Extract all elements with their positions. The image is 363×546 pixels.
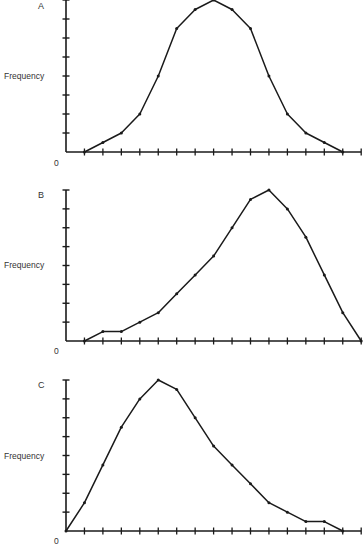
data-point <box>101 463 104 466</box>
data-point <box>120 330 123 333</box>
data-point <box>175 388 178 391</box>
data-point <box>304 132 307 135</box>
data-point <box>341 151 344 154</box>
data-point <box>101 330 104 333</box>
chart-panel-b: B Frequency 0 <box>4 189 363 357</box>
data-point <box>212 255 215 258</box>
data-point <box>249 27 252 30</box>
panel-label-c: C <box>38 380 45 390</box>
data-point <box>360 340 363 343</box>
data-point <box>323 273 326 276</box>
data-point <box>138 113 141 116</box>
origin-label-c: 0 <box>54 536 59 546</box>
data-point <box>304 520 307 523</box>
axes-b <box>63 190 362 345</box>
data-line-c <box>65 379 345 533</box>
data-point <box>157 75 160 78</box>
data-point <box>286 113 289 116</box>
data-point <box>249 482 252 485</box>
y-axis-label-c: Frequency <box>4 451 45 461</box>
data-line-a <box>83 0 344 154</box>
data-point <box>341 311 344 314</box>
data-point <box>323 520 326 523</box>
data-point <box>212 445 215 448</box>
data-point <box>120 132 123 135</box>
data-point <box>231 226 234 229</box>
data-point <box>138 397 141 400</box>
data-point <box>65 530 68 533</box>
origin-label-a: 0 <box>54 158 59 168</box>
data-point <box>323 141 326 144</box>
data-point <box>175 27 178 30</box>
origin-label-b: 0 <box>54 346 59 356</box>
data-point <box>249 198 252 201</box>
y-axis-label-a: Frequency <box>4 71 45 81</box>
data-point <box>231 463 234 466</box>
data-point <box>194 273 197 276</box>
data-point <box>267 189 270 192</box>
data-point <box>175 292 178 295</box>
panel-label-b: B <box>38 190 44 200</box>
y-axis-label-b: Frequency <box>4 260 45 270</box>
data-point <box>83 501 86 504</box>
data-point <box>194 416 197 419</box>
data-point <box>138 321 141 324</box>
data-point <box>231 8 234 11</box>
data-point <box>157 311 160 314</box>
data-point <box>120 426 123 429</box>
data-point <box>286 207 289 210</box>
data-point <box>157 379 160 382</box>
data-point <box>267 501 270 504</box>
frequency-distribution-figure: A Frequency 0 B Frequency 0 C Frequency … <box>0 0 363 546</box>
data-point <box>286 511 289 514</box>
data-point <box>341 530 344 533</box>
data-point <box>304 236 307 239</box>
data-point <box>101 141 104 144</box>
data-point <box>267 75 270 78</box>
panel-label-a: A <box>38 1 44 11</box>
data-line-b <box>83 189 363 343</box>
chart-panel-a: A Frequency 0 <box>4 0 361 168</box>
axes-a <box>63 0 362 156</box>
data-point <box>83 151 86 154</box>
data-point <box>194 8 197 11</box>
data-point <box>83 340 86 343</box>
chart-panel-c: C Frequency 0 <box>4 379 361 546</box>
